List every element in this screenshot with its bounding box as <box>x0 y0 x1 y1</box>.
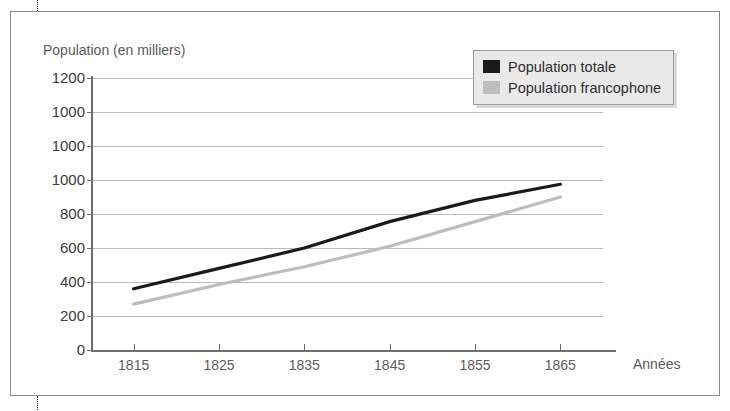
crop-mark-bottom-icon <box>37 396 38 410</box>
legend-item: Population totale <box>483 56 661 77</box>
y-axis-tick-label: 0 <box>39 341 85 358</box>
chart-title: Population (en milliers) <box>43 42 185 58</box>
x-axis-tick-label: 1865 <box>545 357 576 373</box>
legend-swatch-icon <box>483 81 500 94</box>
page-frame: Population (en milliers) 120010001000100… <box>10 11 720 396</box>
gridline <box>91 180 603 181</box>
legend-label: Population totale <box>508 59 616 75</box>
y-axis-tick-label: 200 <box>39 307 85 324</box>
y-axis-line <box>91 76 93 352</box>
plot-area <box>91 78 603 350</box>
legend-label: Population francophone <box>508 80 661 96</box>
legend-swatch-icon <box>483 60 500 73</box>
y-axis-tick-label: 400 <box>39 273 85 290</box>
line-chart: Population (en milliers) 120010001000100… <box>11 12 721 397</box>
legend-item: Population francophone <box>483 77 661 98</box>
x-axis-tick-mark <box>134 344 135 351</box>
x-axis-tick-mark <box>304 344 305 351</box>
y-axis-tick-label: 1000 <box>39 103 85 120</box>
x-axis-title: Années <box>633 356 680 372</box>
gridline <box>91 214 603 215</box>
x-axis-tick-label: 1845 <box>374 357 405 373</box>
x-axis-line <box>91 350 616 352</box>
x-axis-tick-mark <box>560 344 561 351</box>
x-axis-tick-label: 1815 <box>118 357 149 373</box>
gridline <box>91 112 603 113</box>
y-axis-tick-label: 1000 <box>39 137 85 154</box>
x-axis-tick-mark <box>219 344 220 351</box>
y-axis-tick-label: 1200 <box>39 69 85 86</box>
x-axis-tick-label: 1825 <box>203 357 234 373</box>
y-axis-tick-label: 600 <box>39 239 85 256</box>
y-axis-tick-label: 800 <box>39 205 85 222</box>
x-axis-tick-label: 1835 <box>289 357 320 373</box>
x-axis-tick-mark <box>475 344 476 351</box>
gridline <box>91 146 603 147</box>
y-axis-tick-label: 1000 <box>39 171 85 188</box>
crop-mark-top-icon <box>37 0 38 11</box>
gridline <box>91 282 603 283</box>
x-axis-tick-label: 1855 <box>459 357 490 373</box>
x-axis-tick-mark <box>390 344 391 351</box>
chart-legend: Population totalePopulation francophone <box>473 50 674 105</box>
gridline <box>91 316 603 317</box>
gridline <box>91 248 603 249</box>
y-axis-tick-labels: 12001000100010008006004002000 <box>33 78 85 350</box>
